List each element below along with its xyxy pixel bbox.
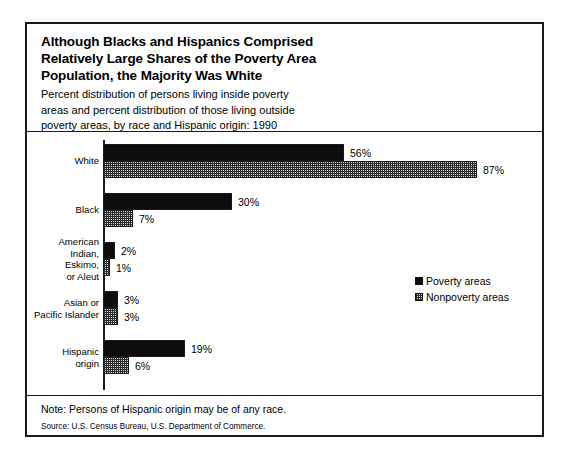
footer-divider — [27, 395, 542, 396]
chart-title-line-2: Relatively Large Shares of the Poverty A… — [41, 50, 542, 67]
chart-plot-area: White 56% 87% Black — [27, 132, 542, 395]
bar-asian-poverty[interactable] — [103, 291, 118, 308]
bar-pair-black: 30% 7% — [103, 193, 542, 227]
bar-hispanic-nonpoverty[interactable] — [103, 357, 129, 374]
legend-label-poverty-areas: Poverty areas — [426, 273, 491, 289]
chart-title: Although Blacks and Hispanics Comprised … — [41, 33, 542, 84]
bar-asian-nonpoverty[interactable] — [103, 308, 118, 325]
bar-pair-white: 56% 87% — [103, 144, 542, 178]
legend-item-nonpoverty-areas[interactable]: Nonpoverty areas — [415, 289, 509, 305]
bar-value-asian-nonpoverty: 3% — [118, 311, 139, 323]
bar-value-asian-poverty: 3% — [118, 294, 139, 306]
bar-american-indian-poverty[interactable] — [103, 242, 115, 259]
bar-pair-american-indian-eskimo-aleut: 2% 1% — [103, 242, 542, 276]
bar-value-white-poverty: 56% — [344, 147, 371, 159]
bar-row-american-indian-poverty: 2% — [103, 242, 542, 259]
legend-label-nonpoverty-areas: Nonpoverty areas — [426, 289, 509, 305]
category-label-line: Hispanic — [27, 346, 99, 358]
bar-group-hispanic-origin: Hispanic origin 19% 6% — [27, 340, 542, 374]
legend-swatch-poverty-icon — [415, 277, 423, 285]
bar-value-hispanic-poverty: 19% — [185, 343, 212, 355]
category-label-asian-pacific-islander: Asian or Pacific Islander — [27, 291, 99, 325]
bar-row-hispanic-nonpoverty: 6% — [103, 357, 542, 374]
bar-value-american-indian-nonpoverty: 1% — [110, 262, 131, 274]
chart-footer: Note: Persons of Hispanic origin may be … — [41, 402, 532, 433]
bar-group-white: White 56% 87% — [27, 144, 542, 178]
chart-subtitle: Percent distribution of persons living i… — [41, 87, 542, 134]
bar-value-hispanic-nonpoverty: 6% — [129, 360, 150, 372]
chart-legend: Poverty areas Nonpoverty areas — [415, 273, 509, 305]
category-label-line: Eskimo, — [27, 259, 99, 271]
chart-subtitle-line-1: Percent distribution of persons living i… — [41, 87, 542, 103]
bar-value-black-poverty: 30% — [232, 196, 259, 208]
bar-group-american-indian-eskimo-aleut: American Indian, Eskimo, or Aleut 2% 1% — [27, 242, 542, 276]
legend-swatch-nonpoverty-icon — [415, 293, 423, 301]
bar-american-indian-nonpoverty[interactable] — [103, 259, 110, 276]
category-label-american-indian-eskimo-aleut: American Indian, Eskimo, or Aleut — [27, 242, 99, 276]
chart-title-line-3: Population, the Majority Was White — [41, 67, 542, 84]
category-label-line: American — [27, 236, 99, 248]
footnote-note: Note: Persons of Hispanic origin may be … — [41, 402, 532, 416]
category-label-line: Black — [27, 204, 99, 216]
bar-row-asian-nonpoverty: 3% — [103, 308, 542, 325]
category-label-line: White — [27, 155, 99, 167]
bar-row-hispanic-poverty: 19% — [103, 340, 542, 357]
bar-pair-hispanic-origin: 19% 6% — [103, 340, 542, 374]
bar-group-black: Black 30% 7% — [27, 193, 542, 227]
category-label-line: or Aleut — [27, 271, 99, 283]
category-label-line: Pacific Islander — [27, 308, 99, 320]
chart-title-line-1: Although Blacks and Hispanics Comprised — [41, 33, 542, 50]
bar-black-nonpoverty[interactable] — [103, 210, 133, 227]
chart-panel: Although Blacks and Hispanics Comprised … — [25, 22, 544, 437]
bar-row-white-nonpoverty: 87% — [103, 161, 542, 178]
category-label-line: origin — [27, 357, 99, 369]
bar-row-white-poverty: 56% — [103, 144, 542, 161]
category-label-hispanic-origin: Hispanic origin — [27, 340, 99, 374]
chart-header: Although Blacks and Hispanics Comprised … — [27, 24, 542, 134]
bar-row-black-nonpoverty: 7% — [103, 210, 542, 227]
category-label-white: White — [27, 144, 99, 178]
legend-item-poverty-areas[interactable]: Poverty areas — [415, 273, 509, 289]
category-label-line: Asian or — [27, 297, 99, 309]
bar-hispanic-poverty[interactable] — [103, 340, 185, 357]
bar-white-nonpoverty[interactable] — [103, 161, 477, 178]
bar-row-black-poverty: 30% — [103, 193, 542, 210]
bar-value-black-nonpoverty: 7% — [133, 213, 154, 225]
chart-subtitle-line-2: areas and percent distribution of those … — [41, 103, 542, 119]
bar-value-american-indian-poverty: 2% — [115, 245, 136, 257]
category-label-line: Indian, — [27, 248, 99, 260]
footnote-source: Source: U.S. Census Bureau, U.S. Departm… — [41, 421, 532, 433]
bar-black-poverty[interactable] — [103, 193, 232, 210]
bar-white-poverty[interactable] — [103, 144, 344, 161]
category-label-black: Black — [27, 193, 99, 227]
bar-value-white-nonpoverty: 87% — [477, 164, 504, 176]
